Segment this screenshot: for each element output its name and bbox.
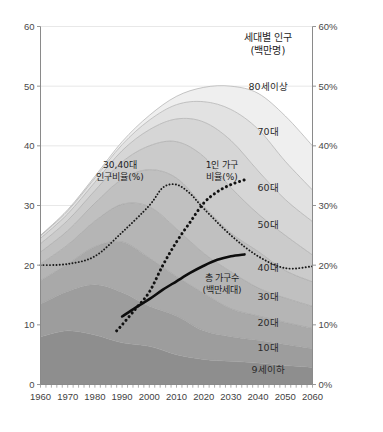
x-tick-label: 2000	[139, 391, 160, 402]
y-right-tick-label: 40%	[319, 140, 339, 151]
chart-subtitle: (백만명)	[251, 45, 286, 56]
band-label-40대: 40대	[257, 262, 278, 273]
annotation-label-0-line2: 인구비율(%)	[96, 172, 144, 182]
band-label-60대: 60대	[257, 182, 278, 193]
y-right-tick-label: 20%	[319, 260, 339, 271]
y-right-tick-label: 10%	[319, 319, 339, 330]
y-right-tick-label: 0%	[319, 379, 333, 390]
x-tick-label: 2020	[193, 391, 214, 402]
annotation-label-0-line1: 30,40대	[103, 160, 137, 170]
x-tick-label: 1990	[112, 391, 133, 402]
y-left-tick-label: 50	[24, 81, 35, 92]
x-tick-label: 1960	[30, 391, 51, 402]
y-left-tick-label: 60	[24, 21, 35, 32]
chart-container: 01020304050600%10%20%30%40%50%60%1960197…	[0, 0, 383, 432]
y-left-tick-label: 30	[24, 200, 35, 211]
band-label-70대: 70대	[257, 126, 278, 137]
x-tick-label: 1970	[57, 391, 78, 402]
x-tick-label: 1980	[84, 391, 105, 402]
y-left-tick-label: 10	[24, 319, 35, 330]
y-right-tick-label: 30%	[319, 200, 339, 211]
band-label-50대: 50대	[257, 219, 278, 230]
annotation-label-1-line1: 1인 가구	[206, 160, 239, 170]
x-tick-label: 2050	[275, 391, 296, 402]
y-right-tick-label: 60%	[319, 21, 339, 32]
x-tick-label: 2060	[302, 391, 323, 402]
y-right-tick-label: 50%	[319, 81, 339, 92]
x-tick-label: 2030	[220, 391, 241, 402]
x-tick-label: 2040	[248, 391, 269, 402]
y-left-tick-label: 40	[24, 140, 35, 151]
band-label-80세이상: 80세이상	[248, 81, 287, 92]
annotation-label-2-line1: 총 가구수	[205, 273, 240, 283]
band-label-9세이하: 9세이하	[251, 364, 284, 375]
band-label-30대: 30대	[257, 291, 278, 302]
population-area-chart: 01020304050600%10%20%30%40%50%60%1960197…	[0, 0, 383, 432]
annotation-label-2-line2: (백만세대)	[202, 285, 241, 295]
band-label-20대: 20대	[257, 317, 278, 328]
band-label-10대: 10대	[257, 342, 278, 353]
annotation-label-1-line2: 비율(%)	[206, 172, 238, 182]
y-left-tick-label: 0	[29, 379, 34, 390]
x-tick-label: 2010	[166, 391, 187, 402]
y-left-tick-label: 20	[24, 260, 35, 271]
chart-title: 세대별 인구	[244, 32, 292, 43]
